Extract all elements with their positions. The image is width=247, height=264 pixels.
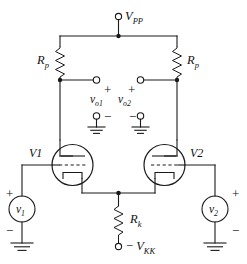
label-source-left: v1 (16, 204, 25, 218)
label-plate-resistor-right: Rp (187, 54, 199, 69)
tube-left-group (52, 140, 93, 193)
label-output-right: vo2 (118, 94, 131, 108)
sign-source-right-plus: + (232, 187, 239, 200)
label-source-right: v2 (209, 204, 218, 218)
label-output-left: vo1 (90, 94, 103, 108)
sign-output-left-minus: − (104, 110, 111, 123)
circuit-schematic (0, 0, 247, 264)
terminal-output-left-plus[interactable] (93, 77, 99, 83)
sign-source-right-minus: − (232, 224, 239, 237)
tube-left-cathode (63, 173, 82, 179)
sign-source-left-plus: + (6, 187, 13, 200)
plate-resistor-left-group (56, 46, 65, 140)
ground-source-right (204, 243, 226, 250)
tube-right-cathode (155, 173, 174, 179)
label-tube-left: V1 (29, 147, 42, 159)
ground-output-right (132, 127, 149, 133)
terminal-output-right-plus[interactable] (137, 77, 143, 83)
label-vkk: − VKK (126, 240, 155, 255)
junction-vpp (116, 34, 120, 38)
resistor-zigzag-left (56, 46, 65, 80)
input-source-right-group (185, 165, 229, 250)
tube-right-group (144, 140, 185, 193)
plate-resistor-right-group (173, 46, 182, 140)
terminal-vpp[interactable] (115, 13, 121, 19)
label-vpp: VPP (125, 10, 143, 25)
terminal-output-right-minus[interactable] (137, 113, 143, 119)
ground-source-left (11, 243, 33, 250)
terminal-output-left-minus[interactable] (93, 113, 99, 119)
supply-rail-group (60, 13, 177, 46)
label-tube-right: V2 (190, 147, 203, 159)
sign-output-left-plus: + (104, 83, 111, 96)
output-right-group (132, 77, 177, 134)
resistor-zigzag-right (173, 46, 182, 80)
terminal-vkk[interactable] (115, 243, 121, 249)
sign-output-right-minus: − (129, 110, 136, 123)
figure-canvas: VPP Rp Rp + vo1 − + vo2 − V1 V2 Rk − VKK… (0, 0, 247, 264)
label-cathode-resistor: Rk (130, 213, 141, 228)
label-plate-resistor-left: Rp (37, 54, 49, 69)
ground-output-left (88, 127, 105, 133)
sign-source-left-minus: − (6, 224, 13, 237)
resistor-zigzag-cathode (114, 206, 123, 243)
